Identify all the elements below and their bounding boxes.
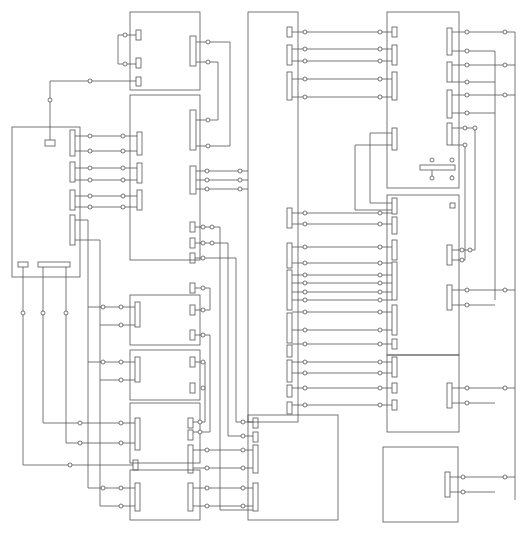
wiring-diagram — [0, 0, 525, 536]
in-unit-box — [130, 295, 200, 345]
addr-bus-box — [130, 403, 200, 463]
mem-unit-box — [248, 415, 338, 520]
pc-ar-unit-box — [387, 355, 459, 432]
data-bus-box — [130, 470, 200, 520]
cpu-bus-box — [383, 447, 458, 522]
control-bus-box — [130, 95, 200, 260]
timing-unit-box — [130, 12, 200, 90]
alu-reg-unit-box — [387, 12, 459, 188]
out-unit-box — [130, 350, 200, 400]
ir-unit-box — [387, 195, 459, 355]
mc-unit-box — [248, 12, 298, 422]
